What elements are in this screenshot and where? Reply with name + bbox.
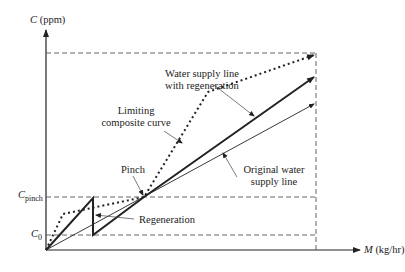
c-pinch-label: Cpinch bbox=[18, 189, 43, 201]
pinch-label: Pinch bbox=[121, 164, 145, 176]
x-axis-label: M (kg/hr) bbox=[364, 244, 405, 256]
regeneration-label: Regeneration bbox=[139, 214, 195, 226]
c-zero-label: C0 bbox=[31, 228, 42, 240]
y-axis-label: C (ppm) bbox=[30, 14, 65, 26]
water-supply-regen-label: Water supply line with regeneration bbox=[142, 68, 262, 92]
limiting-composite-curve-label: Limiting composite curve bbox=[96, 105, 176, 129]
original-water-supply-label: Original water supply line bbox=[234, 164, 314, 188]
